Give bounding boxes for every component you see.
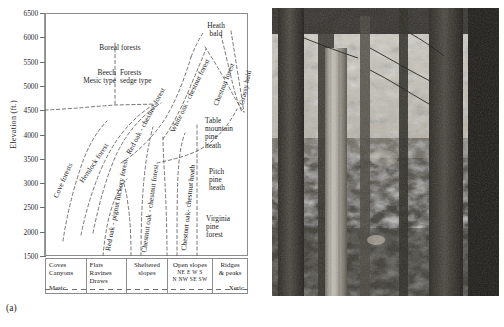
zone-label-forests-sedge: Forests sedge type [120,69,182,85]
table-cell-text: Flats Ravines Draws [90,261,124,285]
figure-root: Elevation (ft.) 6500 6000 5500 5000 4500… [0,0,504,327]
moisture-gradient-dashed-line [45,289,248,290]
y-tick-label: 1500 [0,252,38,261]
y-tick-label: 4000 [0,131,38,140]
y-tick-label: 4500 [0,106,38,115]
panel-caption-a: (a) [6,303,17,313]
zone-label-beech-mesic: Beech Mesic type [62,69,116,85]
compass-row-bottom: N NW SE SW [171,276,209,283]
zone-label-heath-bald: Heath bald [193,22,239,38]
y-tick [40,256,46,257]
table-cell-text: Open slopes [171,261,209,269]
y-tick-label: 3000 [0,179,38,188]
y-tick-label: 2500 [0,203,38,212]
y-tick-label: 5500 [0,58,38,67]
reference-line-4500 [45,104,157,110]
y-tick-label: 5000 [0,82,38,91]
zone-label-boreal-forests: Boreal forests [78,44,162,52]
table-cell-text: Coves Canyons [49,261,83,277]
y-tick-label: 2000 [0,228,38,237]
panel-b-photograph: (b) [265,0,504,327]
y-tick-label: 6500 [0,9,38,18]
panel-a-gradient-diagram: Elevation (ft.) 6500 6000 5500 5000 4500… [0,0,262,327]
zone-label-pitch-pine-heath: Pitch pine heath [209,168,251,193]
y-tick-label: 3500 [0,155,38,164]
y-tick-label: 6000 [0,33,38,42]
table-cell-text: Ridges & peaks [216,261,244,277]
zone-label-table-mountain-pine-heath: Table mountain pine heath [205,117,251,150]
compass-row-top: NE E W S [171,269,209,276]
forest-photograph-image [272,8,499,296]
zone-label-virginia-pine-forest: Virginia pine forest [206,215,252,240]
table-cell-text: Sheltered slopes [130,261,164,277]
